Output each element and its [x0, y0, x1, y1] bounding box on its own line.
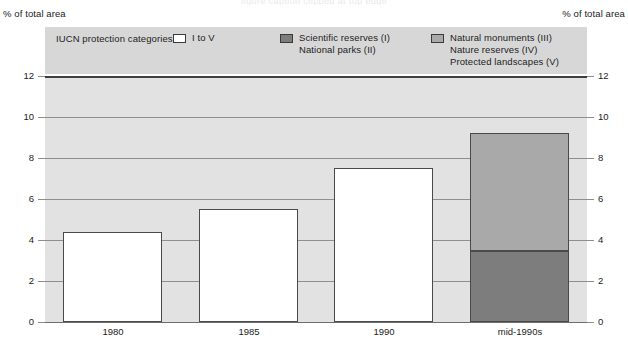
legend-title: IUCN protection categories: — [56, 33, 175, 44]
y-tick-left — [38, 76, 45, 77]
bar-1980 — [63, 232, 162, 322]
bar-segment — [334, 168, 433, 322]
legend-column-3: Natural monuments (III) Nature reserves … — [431, 32, 559, 68]
x-axis-label: 1980 — [45, 326, 181, 337]
legend-entry-label: Nature reserves (IV) — [450, 44, 538, 56]
y-tick-right — [587, 199, 594, 200]
y-axis-label-left: 10 — [10, 111, 34, 122]
y-tick-right — [587, 322, 594, 323]
y-tick-right — [587, 240, 594, 241]
bar-mid-1990s — [470, 133, 569, 322]
y-tick-right — [587, 281, 594, 282]
x-axis-label: mid-1990s — [452, 326, 588, 337]
chart-figure: figure caption clipped at top edge % of … — [0, 0, 628, 364]
legend-entry: Nature reserves (IV) — [431, 44, 559, 56]
y-axis-label-right: 6 — [598, 193, 622, 204]
bar-segment — [470, 133, 569, 251]
y-axis-label-right: 0 — [598, 316, 622, 327]
bar-segment — [470, 251, 569, 322]
x-axis-label: 1985 — [181, 326, 317, 337]
legend-entry-label: Scientific reserves (I) — [299, 32, 390, 44]
y-tick-left — [38, 117, 45, 118]
bar-1990 — [334, 168, 433, 322]
white-swatch-icon — [173, 34, 186, 43]
legend-entry-label: I to V — [192, 32, 215, 44]
legend-entry: Natural monuments (III) — [431, 32, 559, 44]
legend-entry: Scientific reserves (I) — [280, 32, 390, 44]
light-gray-swatch-icon — [431, 34, 444, 43]
y-tick-left — [38, 281, 45, 282]
y-axis-label-left: 2 — [10, 275, 34, 286]
y-axis-label-right: 8 — [598, 152, 622, 163]
legend-entry-label: Protected landscapes (V) — [450, 56, 559, 68]
plot-top-frame — [45, 76, 587, 78]
y-tick-right — [587, 158, 594, 159]
y-axis-label-right: 4 — [598, 234, 622, 245]
clipped-caption: figure caption clipped at top edge — [0, 0, 628, 5]
y-axis-unit-right: % of total area — [562, 8, 625, 19]
y-tick-right — [587, 117, 594, 118]
legend-entry-label: Natural monuments (III) — [450, 32, 552, 44]
y-axis-label-right: 10 — [598, 111, 622, 122]
y-axis-label-left: 0 — [10, 316, 34, 327]
bar-segment — [199, 209, 298, 322]
y-axis-label-left: 12 — [10, 70, 34, 81]
bar-segment — [63, 232, 162, 322]
y-axis-label-left: 4 — [10, 234, 34, 245]
bar-1985 — [199, 209, 298, 322]
y-axis-label-left: 8 — [10, 152, 34, 163]
y-tick-left — [38, 240, 45, 241]
y-tick-left — [38, 322, 45, 323]
y-axis-unit-left: % of total area — [3, 8, 66, 19]
legend-column-2: Scientific reserves (I) National parks (… — [280, 32, 390, 56]
x-axis-label: 1990 — [316, 326, 452, 337]
legend-entry-label: National parks (II) — [299, 44, 376, 56]
legend-entry: National parks (II) — [280, 44, 390, 56]
chart-legend: IUCN protection categories: I to V Scien… — [45, 27, 587, 74]
legend-column-1: I to V — [173, 32, 215, 44]
gridline — [45, 117, 587, 118]
y-tick-left — [38, 199, 45, 200]
y-tick-right — [587, 76, 594, 77]
legend-entry: I to V — [173, 32, 215, 44]
y-axis-label-right: 2 — [598, 275, 622, 286]
y-tick-left — [38, 158, 45, 159]
legend-entry: Protected landscapes (V) — [431, 56, 559, 68]
dark-gray-swatch-icon — [280, 34, 293, 43]
gridline — [45, 322, 587, 323]
y-axis-label-left: 6 — [10, 193, 34, 204]
y-axis-label-right: 12 — [598, 70, 622, 81]
